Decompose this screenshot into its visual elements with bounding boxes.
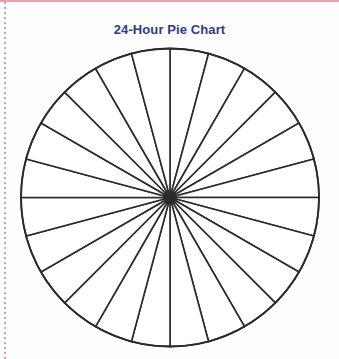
pie-chart-svg (0, 0, 339, 359)
pie-center-hub (167, 194, 173, 200)
pie-chart-figure (0, 0, 339, 359)
